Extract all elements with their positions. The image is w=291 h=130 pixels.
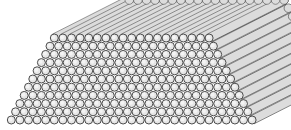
rod-highlight: [142, 93, 146, 97]
rod-highlight: [95, 52, 99, 56]
rod-highlight: [107, 93, 111, 97]
rod-highlight: [86, 84, 90, 88]
rod-highlight: [241, 101, 245, 105]
rod-highlight: [120, 84, 124, 88]
rod-highlight: [142, 76, 146, 80]
rod-highlight: [211, 60, 215, 64]
rod-highlight: [138, 117, 142, 121]
rod-highlight: [176, 43, 180, 47]
rod-highlight: [193, 43, 197, 47]
rod-highlight: [224, 84, 228, 88]
rod-highlight: [73, 109, 77, 113]
rod-highlight: [146, 35, 150, 39]
rod-highlight: [146, 68, 150, 72]
rod-highlight: [138, 68, 142, 72]
rod-highlight: [159, 60, 163, 64]
rod-highlight: [138, 35, 142, 39]
rod-highlight: [168, 43, 172, 47]
rod-highlight: [155, 84, 159, 88]
rod-highlight: [202, 60, 206, 64]
rod-highlight: [116, 43, 120, 47]
rod-highlight: [125, 60, 129, 64]
rod-highlight: [206, 101, 210, 105]
rod-highlight: [168, 76, 172, 80]
rod-highlight: [224, 117, 228, 121]
rod-highlight: [236, 93, 240, 97]
rod-highlight: [103, 68, 107, 72]
rod-highlight: [99, 93, 103, 97]
rod-highlight: [219, 60, 223, 64]
rod-highlight: [133, 109, 137, 113]
rod-highlight: [133, 60, 137, 64]
rod-highlight: [107, 76, 111, 80]
rod-highlight: [34, 117, 38, 121]
rod-highlight: [69, 101, 73, 105]
rod-highlight: [232, 84, 236, 88]
rod-highlight: [64, 109, 68, 113]
rod-highlight: [52, 35, 56, 39]
rod-highlight: [198, 101, 202, 105]
rod-highlight: [155, 101, 159, 105]
rod-highlight: [129, 84, 133, 88]
rod-highlight: [159, 109, 163, 113]
rod-highlight: [21, 93, 25, 97]
rod-highlight: [77, 101, 81, 105]
rod-highlight: [189, 101, 193, 105]
rod-highlight: [120, 101, 124, 105]
rod-highlight: [198, 68, 202, 72]
rod-highlight: [219, 93, 223, 97]
rod-highlight: [249, 117, 253, 121]
rod-highlight: [116, 60, 120, 64]
rod-highlight: [198, 117, 202, 121]
rod-highlight: [116, 76, 120, 80]
rod-highlight: [198, 52, 202, 56]
rod-highlight: [43, 117, 47, 121]
rod-highlight: [82, 109, 86, 113]
rod-highlight: [82, 60, 86, 64]
rod-highlight: [185, 93, 189, 97]
rod-highlight: [64, 93, 68, 97]
rod-highlight: [125, 76, 129, 80]
rod-highlight: [69, 117, 73, 121]
rod-highlight: [150, 76, 154, 80]
rod-highlight: [86, 117, 90, 121]
rod-highlight: [112, 52, 116, 56]
rod-highlight: [193, 76, 197, 80]
rod-highlight: [99, 76, 103, 80]
rod-highlight: [189, 68, 193, 72]
rod-highlight: [228, 76, 232, 80]
rod-highlight: [228, 93, 232, 97]
rod-highlight: [17, 117, 21, 121]
rod-highlight: [159, 43, 163, 47]
rod-highlight: [34, 68, 38, 72]
rod-highlight: [150, 109, 154, 113]
rod-highlight: [120, 35, 124, 39]
rod-highlight: [198, 35, 202, 39]
rod-highlight: [206, 84, 210, 88]
rod-highlight: [82, 93, 86, 97]
rod-highlight: [90, 109, 94, 113]
rod-highlight: [39, 76, 43, 80]
rod-highlight: [60, 84, 64, 88]
rod-highlight: [172, 84, 176, 88]
rod-highlight: [211, 43, 215, 47]
rod-highlight: [77, 35, 81, 39]
rod-highlight: [125, 109, 129, 113]
rod-highlight: [129, 35, 133, 39]
rod-highlight: [133, 93, 137, 97]
rod-highlight: [73, 76, 77, 80]
rod-highlight: [73, 60, 77, 64]
rod-highlight: [146, 117, 150, 121]
rod-highlight: [181, 52, 185, 56]
rod-highlight: [172, 52, 176, 56]
rod-highlight: [90, 60, 94, 64]
rod-highlight: [99, 43, 103, 47]
rod-highlight: [168, 93, 172, 97]
rod-highlight: [236, 109, 240, 113]
rod-highlight: [163, 101, 167, 105]
rod-highlight: [142, 60, 146, 64]
rod-highlight: [189, 35, 193, 39]
rod-highlight: [52, 117, 56, 121]
rod-highlight: [150, 43, 154, 47]
rod-highlight: [133, 43, 137, 47]
